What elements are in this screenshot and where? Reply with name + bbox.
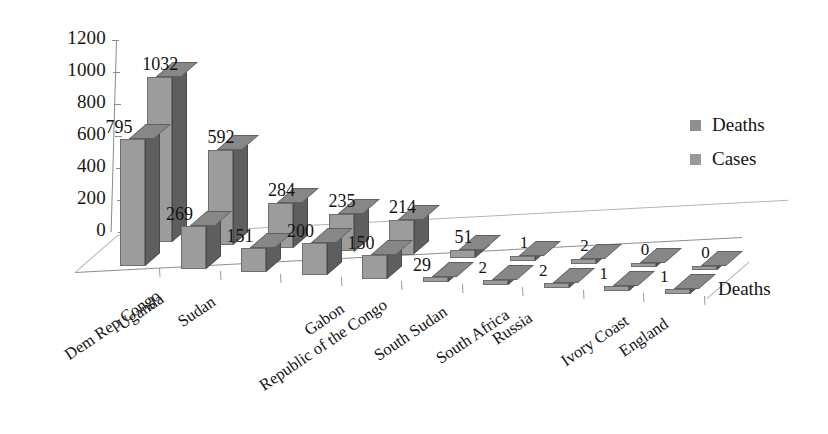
value-label-cases-6: 1 <box>520 233 529 253</box>
value-label-cases-7: 2 <box>580 236 589 256</box>
bar-front-face <box>302 243 327 275</box>
bar-front-face <box>692 266 717 270</box>
x-axis-tick-mark <box>522 287 524 296</box>
legend-item-cases[interactable]: Cases <box>690 142 765 176</box>
bar-side-face <box>145 126 160 266</box>
value-label-cases-5: 51 <box>454 227 472 248</box>
bar-deaths-2[interactable] <box>241 248 266 272</box>
value-label-deaths-7: 2 <box>539 261 548 281</box>
chart-canvas: 120010008006004002000 1032795Dem Rep Con… <box>0 0 828 434</box>
value-label-deaths-8: 1 <box>600 264 609 284</box>
bar-cases-5[interactable] <box>450 250 475 258</box>
bar-front-face <box>241 248 266 272</box>
bar-deaths-6[interactable] <box>483 280 508 285</box>
x-axis-tick-mark <box>220 271 222 280</box>
value-label-cases-1: 592 <box>208 127 235 148</box>
legend-label-deaths: Deaths <box>712 114 765 136</box>
x-axis-tick-mark <box>401 281 403 290</box>
bar-front-face <box>362 255 387 279</box>
bar-cases-6[interactable] <box>510 256 535 261</box>
bar-deaths-3[interactable] <box>302 243 327 275</box>
bar-deaths-1[interactable] <box>181 226 206 269</box>
value-label-cases-2: 284 <box>268 180 295 201</box>
y-axis-tick-label: 1200 <box>28 27 106 49</box>
bar-top-face <box>552 268 594 283</box>
bar-cases-7[interactable] <box>571 259 596 264</box>
bar-front-face <box>120 139 145 266</box>
axis-depth-left <box>75 235 118 273</box>
value-label-cases-3: 235 <box>329 191 356 212</box>
bar-front-face <box>450 250 475 258</box>
bar-top-face <box>492 265 534 280</box>
legend: Deaths Cases <box>690 108 765 176</box>
bar-front-face <box>544 283 569 288</box>
value-label-deaths-3: 200 <box>287 221 314 242</box>
y-axis-tick-label: 800 <box>28 91 106 113</box>
value-label-deaths-0: 795 <box>106 117 133 138</box>
x-axis-tick-mark <box>704 296 706 305</box>
bar-top-face <box>613 271 655 286</box>
bar-front-face <box>604 286 629 291</box>
bar-top-face <box>431 262 473 277</box>
value-label-deaths-5: 29 <box>413 255 431 276</box>
y-axis-tick-label: 1000 <box>28 59 106 81</box>
x-axis-tick-mark <box>583 290 585 299</box>
x-axis-tick-mark <box>280 274 282 283</box>
value-label-cases-8: 0 <box>641 240 650 260</box>
x-axis-tick-mark <box>462 284 464 293</box>
value-label-deaths-6: 2 <box>479 258 488 278</box>
bar-deaths-0[interactable] <box>120 139 145 266</box>
bar-front-face <box>423 277 448 282</box>
bar-top-face <box>673 274 715 289</box>
bar-deaths-4[interactable] <box>362 255 387 279</box>
bar-cases-8[interactable] <box>631 263 656 267</box>
legend-swatch-cases <box>690 154 701 165</box>
bar-front-face <box>631 263 656 267</box>
value-label-deaths-4: 150 <box>348 233 375 254</box>
legend-item-deaths[interactable]: Deaths <box>690 108 765 142</box>
bar-cases-9[interactable] <box>692 266 717 270</box>
y-axis-tick-label: 200 <box>28 187 106 209</box>
bar-front-face <box>665 289 690 294</box>
value-label-cases-4: 214 <box>389 197 416 218</box>
depth-axis-label: Deaths <box>718 278 771 300</box>
legend-label-cases: Cases <box>712 148 756 170</box>
value-label-deaths-9: 1 <box>660 267 669 287</box>
bar-front-face <box>181 226 206 269</box>
bar-deaths-5[interactable] <box>423 277 448 282</box>
y-axis-tick-label: 400 <box>28 155 106 177</box>
x-axis-tick-mark <box>341 277 343 286</box>
legend-swatch-deaths <box>690 120 701 131</box>
x-axis-tick-mark <box>643 293 645 302</box>
y-axis-tick-label: 600 <box>28 123 106 145</box>
value-label-deaths-2: 151 <box>227 226 254 247</box>
x-axis-tick-mark <box>159 268 161 277</box>
bar-deaths-9[interactable] <box>665 289 690 294</box>
y-axis-tick-label: 0 <box>28 219 106 241</box>
x-axis-category-label: Sudan <box>174 292 219 332</box>
bar-front-face <box>510 256 535 261</box>
value-label-cases-0: 1032 <box>142 54 178 75</box>
value-label-cases-9: 0 <box>701 243 710 263</box>
bar-front-face <box>483 280 508 285</box>
bar-front-face <box>571 259 596 264</box>
bar-deaths-8[interactable] <box>604 286 629 291</box>
value-label-deaths-1: 269 <box>166 204 193 225</box>
bar-deaths-7[interactable] <box>544 283 569 288</box>
